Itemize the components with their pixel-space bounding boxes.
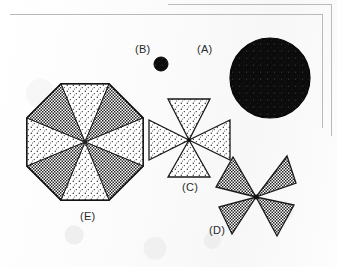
shape-label-e: (E)	[80, 210, 96, 222]
shape-e-octagon	[27, 84, 143, 200]
shape-c-cross	[149, 99, 230, 177]
shape-a-disc	[230, 38, 310, 118]
shape-c-center-node	[187, 138, 191, 142]
shape-label-b: (B)	[135, 43, 151, 55]
shape-label-d: (D)	[209, 224, 225, 236]
shape-label-c: (C)	[182, 181, 198, 193]
shape-d-triangle-nw	[216, 157, 256, 197]
shape-d-center-node	[254, 195, 259, 200]
shape-d-triangle-se	[256, 197, 294, 236]
shape-illustrations	[0, 0, 337, 267]
shape-d-cross	[216, 156, 296, 236]
shape-label-a: (A)	[197, 43, 213, 55]
shape-d-triangle-ne	[256, 156, 296, 197]
shape-b-disc	[154, 57, 168, 71]
shape-a-circle	[230, 38, 310, 118]
shape-b-dot	[154, 57, 168, 71]
figure-canvas: (A) (B) (C) (D) (E)	[0, 0, 337, 267]
